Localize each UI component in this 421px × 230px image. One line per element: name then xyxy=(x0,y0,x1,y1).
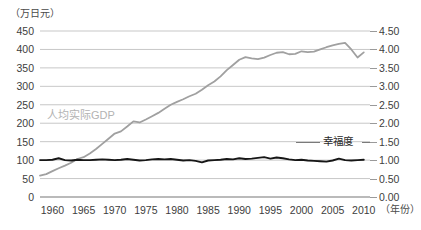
right-axis-tick-mark xyxy=(370,142,377,143)
right-axis-tick-mark xyxy=(370,68,377,69)
left-axis-tick-label: 100 xyxy=(16,155,34,165)
right-axis-tick-label: 2.00 xyxy=(379,118,399,128)
right-axis-tick-label: 0.50 xyxy=(379,174,399,184)
x-axis-tick-label: 1960 xyxy=(41,205,64,215)
x-axis-tick-label: 2000 xyxy=(290,205,313,215)
right-axis-tick-mark xyxy=(370,123,377,124)
x-axis-tick-label: 2010 xyxy=(352,205,375,215)
x-axis-tick-label: 1990 xyxy=(228,205,251,215)
x-axis-tick-label: 1995 xyxy=(259,205,282,215)
gdp-series-annotation: 人均实际GDP xyxy=(47,110,115,121)
x-axis-tick-label: 1980 xyxy=(165,205,188,215)
left-axis-tick-label: 350 xyxy=(16,63,34,73)
right-axis-tick-mark xyxy=(370,160,377,161)
x-axis-tick-label: 2005 xyxy=(321,205,344,215)
right-axis-tick-mark xyxy=(370,31,377,32)
right-axis-tick-label: 2.50 xyxy=(379,100,399,110)
right-axis-tick-mark xyxy=(370,86,377,87)
x-axis-tick-label: 1970 xyxy=(103,205,126,215)
right-axis-tick-label: 3.50 xyxy=(379,63,399,73)
right-axis-tick-label: 1.00 xyxy=(379,155,399,165)
right-axis-tick-mark xyxy=(370,179,377,180)
left-axis-tick-label: 300 xyxy=(16,81,34,91)
right-axis-tick-mark xyxy=(370,105,377,106)
left-axis-tick-label: 200 xyxy=(16,118,34,128)
right-axis-tick-label: 4.00 xyxy=(379,44,399,54)
x-axis-title: （年份） xyxy=(380,205,420,215)
x-axis-tick-label: 1975 xyxy=(134,205,157,215)
happiness-series-annotation: 幸福度 xyxy=(323,136,353,147)
right-axis-tick-label: 0.00 xyxy=(379,192,399,202)
happiness-legend-dash-left xyxy=(296,142,320,143)
left-axis-tick-label: 50 xyxy=(22,174,34,184)
left-axis-tick-label: 0 xyxy=(28,192,34,202)
left-axis-tick-label: 150 xyxy=(16,137,34,147)
right-axis-tick-mark xyxy=(370,49,377,50)
x-axis-tick-label: 1985 xyxy=(196,205,219,215)
left-axis-tick-label: 450 xyxy=(16,26,34,36)
right-axis-tick-label: 1.50 xyxy=(379,137,399,147)
left-axis-tick-label: 400 xyxy=(16,44,34,54)
right-axis-tick-label: 4.50 xyxy=(379,26,399,36)
left-axis-tick-label: 250 xyxy=(16,100,34,110)
chart-container: （万日元） 人均实际GDP 幸福度 0501001502002503003504… xyxy=(0,0,421,230)
right-axis-tick-mark xyxy=(370,197,377,198)
x-axis-tick-label: 1965 xyxy=(72,205,95,215)
right-axis-tick-label: 3.00 xyxy=(379,81,399,91)
